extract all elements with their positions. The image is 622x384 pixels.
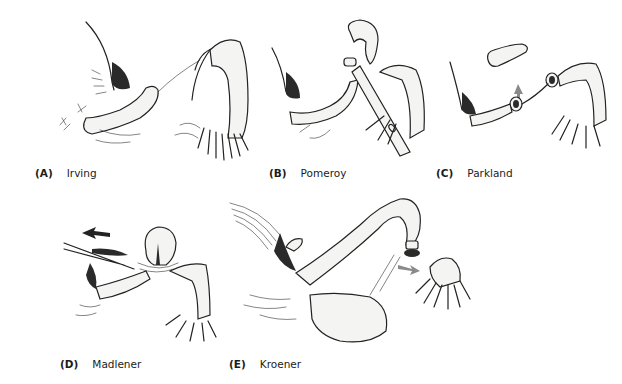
panel-name: Irving bbox=[67, 167, 97, 179]
panel-parkland bbox=[440, 40, 622, 160]
panel-letter: (C) bbox=[436, 167, 453, 179]
caption-pomeroy: (B)Pomeroy bbox=[269, 167, 346, 179]
right-arrow-icon bbox=[398, 265, 420, 275]
panel-letter: (B) bbox=[269, 167, 287, 179]
panel-name: Kroener bbox=[260, 358, 301, 370]
excised-segment bbox=[488, 44, 528, 66]
fimbriae-detached bbox=[430, 258, 460, 287]
caption-parkland: (C)Parkland bbox=[436, 167, 513, 179]
caption-irving: (A)Irving bbox=[35, 167, 97, 179]
panel-name: Parkland bbox=[467, 167, 512, 179]
caption-madlener: (D)Madlener bbox=[60, 358, 141, 370]
kroener-illustration bbox=[230, 195, 480, 355]
panel-letter: (E) bbox=[229, 358, 246, 370]
panel-kroener bbox=[230, 195, 480, 355]
uterine-tube-fimbriae-a bbox=[170, 30, 260, 170]
parkland-illustration bbox=[440, 40, 622, 160]
caption-kroener: (E)Kroener bbox=[229, 358, 301, 370]
panel-letter: (A) bbox=[35, 167, 53, 179]
panel-irving-tube-right bbox=[170, 30, 260, 170]
panel-name: Madlener bbox=[92, 358, 141, 370]
panel-name: Pomeroy bbox=[301, 167, 347, 179]
left-arrow-icon bbox=[82, 227, 110, 239]
panel-madlener bbox=[60, 225, 230, 345]
pomeroy-illustration bbox=[270, 20, 430, 160]
panel-pomeroy bbox=[270, 20, 430, 160]
panel-letter: (D) bbox=[60, 358, 78, 370]
madlener-illustration bbox=[60, 225, 230, 345]
ovary bbox=[310, 293, 387, 341]
